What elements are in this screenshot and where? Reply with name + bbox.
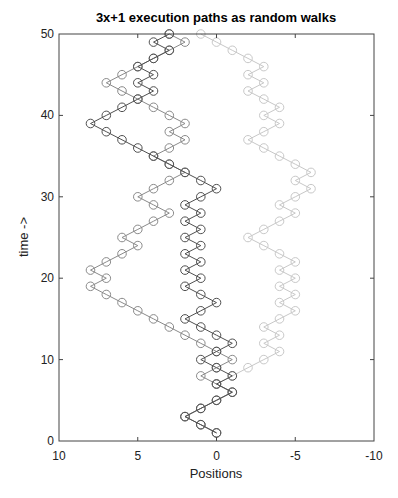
data-point-marker [212,429,221,438]
x-tick-label: -10 [365,449,383,463]
y-axis-label: time -> [16,217,31,257]
series-line [91,34,233,433]
y-tick-label: 30 [41,190,55,204]
series-path-medium [86,30,236,438]
series-layer [86,30,315,438]
ticks-layer: 1050-5-1001020304050 [41,27,383,463]
series-line [91,34,233,433]
series-path-dark [86,30,236,438]
x-tick-label: 0 [213,449,220,463]
x-tick-label: -5 [290,449,301,463]
chart: 3x+1 execution paths as random walks 105… [0,0,398,498]
y-tick-label: 10 [41,353,55,367]
y-tick-label: 0 [47,434,54,448]
chart-title: 3x+1 execution paths as random walks [96,10,336,25]
y-tick-label: 20 [41,271,55,285]
y-tick-label: 50 [41,27,55,41]
x-tick-label: 10 [52,449,66,463]
y-tick-label: 40 [41,108,55,122]
x-axis-label: Positions [190,466,243,481]
x-tick-label: 5 [134,449,141,463]
